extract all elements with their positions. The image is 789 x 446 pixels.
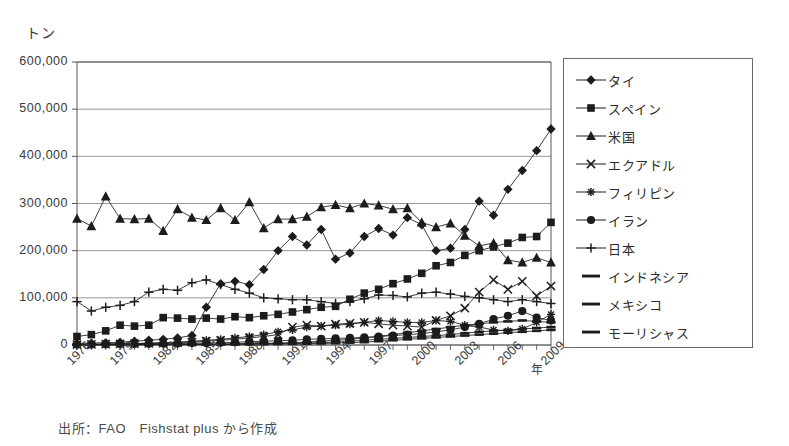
legend-item-4: フィリピン: [564, 178, 752, 206]
legend-item-label: タイ: [608, 71, 635, 90]
legend-item-8: メキシコ: [564, 290, 752, 318]
legend-item-label: フィリピン: [608, 183, 676, 202]
series-2: [72, 191, 556, 266]
y-tick-label: 100,000: [2, 290, 68, 304]
legend-item-label: メキシコ: [608, 295, 662, 314]
x-axis-unit-label: 年: [531, 360, 543, 377]
y-tick-label: 600,000: [2, 54, 68, 68]
legend-item-7: インドネシア: [564, 262, 752, 290]
legend-item-5: イラン: [564, 206, 752, 234]
dash-marker-icon: [574, 295, 608, 313]
diamond-marker-icon: [574, 71, 608, 89]
series-0: [72, 124, 555, 348]
legend-item-9: モーリシャス: [564, 318, 752, 346]
plus-marker-icon: [574, 239, 608, 257]
y-tick-label: 400,000: [2, 148, 68, 162]
circle-marker-icon: [574, 211, 608, 229]
legend-item-label: イラン: [608, 211, 649, 230]
square-marker-icon: [574, 99, 608, 117]
legend-item-2: 米国: [564, 122, 752, 150]
legend-item-label: エクアドル: [608, 155, 676, 174]
legend-item-3: エクアドル: [564, 150, 752, 178]
legend-item-6: 日本: [564, 234, 752, 262]
legend-item-label: モーリシャス: [608, 323, 689, 342]
asterisk-marker-icon: [574, 183, 608, 201]
y-tick-label: 200,000: [2, 243, 68, 257]
legend-item-label: インドネシア: [608, 267, 689, 286]
legend-item-1: スペイン: [564, 94, 752, 122]
dash-marker-icon: [574, 267, 608, 285]
legend-item-label: 日本: [608, 239, 635, 258]
y-tick-label: 300,000: [2, 196, 68, 210]
legend-item-label: 米国: [608, 127, 635, 146]
dash-marker-icon: [574, 323, 608, 341]
chart-legend: タイスペイン米国エクアドルフィリピンイラン日本インドネシアメキシコモーリシャス: [563, 58, 753, 348]
legend-item-label: スペイン: [608, 99, 661, 118]
x-marker-icon: [574, 155, 608, 173]
source-note: 出所：FAO Fishstat plus から作成: [58, 418, 277, 437]
series-3: [73, 276, 555, 349]
y-tick-label: 0: [2, 337, 68, 351]
chart-figure: トン 0100,000200,000300,000400,000500,0006…: [0, 0, 789, 446]
legend-item-0: タイ: [564, 66, 752, 94]
triangle-marker-icon: [574, 127, 608, 145]
y-tick-label: 500,000: [2, 101, 68, 115]
